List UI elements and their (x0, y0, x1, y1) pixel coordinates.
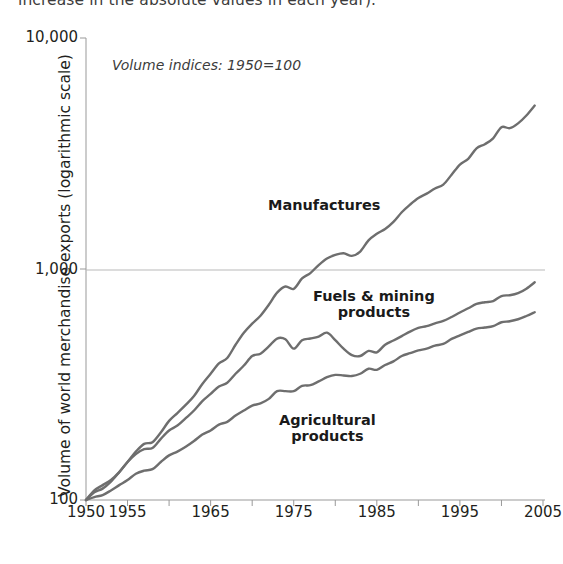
x-tick-label-1995: 1995 (430, 503, 490, 521)
y-tick-label-10000: 10,000 (8, 28, 78, 46)
series-label-fuels-mining-line: Fuels & mining (313, 289, 435, 305)
x-tick-label-1955: 1955 (98, 503, 158, 521)
x-tick-label-2005: 2005 (513, 503, 563, 521)
series-label-agricultural-line: products (279, 429, 376, 445)
series-label-fuels-mining-line: products (313, 305, 435, 321)
series-label-manufactures-line: Manufactures (268, 198, 380, 214)
series-label-fuels-mining: Fuels & miningproducts (313, 289, 435, 320)
x-tick-label-1975: 1975 (264, 503, 324, 521)
x-tick-label-1965: 1965 (181, 503, 241, 521)
line-chart-svg (0, 0, 563, 564)
volume-indices-note: Volume indices: 1950=100 (112, 57, 301, 73)
chart-plot-area: Volume of world merchandise exports (log… (0, 0, 563, 564)
series-label-agricultural-line: Agricultural (279, 413, 376, 429)
series-label-manufactures: Manufactures (268, 198, 380, 214)
y-tick-marks (80, 38, 86, 500)
series-label-agricultural: Agriculturalproducts (279, 413, 376, 444)
y-tick-label-1000: 1,000 (8, 260, 78, 278)
chart-figure: increase in the absolute values in each … (0, 0, 563, 564)
x-tick-label-1985: 1985 (347, 503, 407, 521)
series-line-agricultural-products (86, 312, 535, 500)
